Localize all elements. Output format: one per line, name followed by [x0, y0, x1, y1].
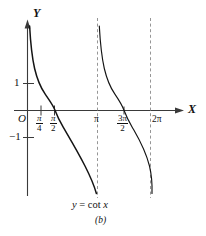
- x-tick-label-2pi: 2π: [152, 115, 162, 125]
- figure-caption-label: (b): [95, 216, 106, 226]
- x-tick-label-pi-over-4: π 4: [36, 114, 43, 133]
- caption-lhs: y: [72, 199, 77, 210]
- cotangent-graph-figure: Y X O 1 −1 π 4 π 2 π 3π 2 2π y = cot x (…: [0, 0, 206, 236]
- three-pi-over-2-denominator: 2: [117, 124, 128, 133]
- figure-caption-equation: y = cot x: [72, 200, 108, 211]
- origin-label: O: [18, 113, 26, 124]
- pi-over-2-denominator: 2: [50, 124, 57, 133]
- curve-branch-pi-to-2pi: [99, 26, 152, 194]
- caption-function: cot: [88, 199, 101, 210]
- y-tick-label-minus-1: −1: [9, 131, 21, 142]
- caption-argument: x: [103, 199, 108, 210]
- x-tick-label-pi-over-2: π 2: [50, 114, 57, 133]
- pi-over-4-denominator: 4: [36, 124, 43, 133]
- y-axis-label: Y: [33, 7, 40, 19]
- x-axis-arrowhead: [175, 108, 184, 114]
- y-tick-label-1: 1: [14, 77, 20, 88]
- x-axis-label: X: [188, 103, 196, 115]
- x-tick-label-pi: π: [94, 115, 99, 125]
- caption-equals: =: [79, 199, 85, 210]
- curve-branch-0-to-pi: [30, 26, 97, 194]
- x-tick-label-3pi-over-2: 3π 2: [117, 114, 128, 133]
